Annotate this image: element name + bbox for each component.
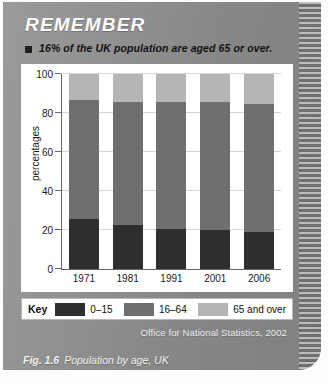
- x-axis-tick-label: 1971: [73, 273, 95, 284]
- bar-column: 1971: [69, 74, 99, 269]
- square-bullet-icon: [25, 46, 32, 53]
- x-axis-tick-label: 2006: [248, 273, 270, 284]
- bar-segment: [156, 74, 186, 102]
- legend-swatch: [198, 303, 228, 316]
- remember-panel: REMEMBER 16% of the UK population are ag…: [3, 2, 321, 370]
- chart-container: percentages 020406080100 197119811991200…: [21, 64, 293, 292]
- y-axis-tick: [55, 112, 61, 113]
- legend-label: 0–15: [90, 304, 112, 315]
- bar-segment: [156, 229, 186, 269]
- legend-key-label: Key: [28, 303, 47, 315]
- bar-segment: [69, 100, 99, 219]
- bullet-row: 16% of the UK population are aged 65 or …: [25, 42, 291, 55]
- legend-item: 16–64: [124, 303, 187, 316]
- y-axis-tick: [55, 229, 61, 230]
- y-axis-tick: [55, 73, 61, 74]
- y-axis-tick-label: 0: [47, 264, 53, 275]
- y-axis-tick: [55, 151, 61, 152]
- bar-segment: [200, 74, 230, 102]
- bar-segment: [113, 225, 143, 269]
- legend-label: 16–64: [159, 304, 187, 315]
- chart-legend: Key 0–1516–6465 and over: [21, 298, 293, 320]
- figure-caption-text: Population by age, UK: [64, 354, 169, 366]
- legend-swatch: [55, 303, 85, 316]
- bar-segment: [244, 104, 274, 232]
- y-axis-tick: [55, 268, 61, 269]
- bar-segment: [69, 74, 99, 100]
- bar-segment: [156, 102, 186, 229]
- page-root: REMEMBER 16% of the UK population are ag…: [0, 0, 328, 384]
- figure-caption: Fig. 1.6Population by age, UK: [23, 354, 291, 366]
- page-edge-artifact: [299, 2, 321, 370]
- x-axis-tick-label: 1981: [117, 273, 139, 284]
- bullet-text: 16% of the UK population are aged 65 or …: [39, 42, 272, 55]
- bars-layer: 19711981199120012006: [62, 74, 281, 269]
- bar-segment: [113, 74, 143, 102]
- bar-column: 1991: [156, 74, 186, 269]
- page-title: REMEMBER: [25, 14, 145, 36]
- bar-column: 2001: [200, 74, 230, 269]
- x-axis-tick-label: 1991: [160, 273, 182, 284]
- figure-number: Fig. 1.6: [23, 354, 59, 366]
- x-axis-tick-label: 2001: [204, 273, 226, 284]
- legend-item: 0–15: [55, 303, 112, 316]
- y-axis-label: percentages: [30, 94, 41, 214]
- legend-label: 65 and over: [233, 304, 286, 315]
- y-axis-tick: [55, 190, 61, 191]
- bar-column: 2006: [244, 74, 274, 269]
- bar-segment: [113, 102, 143, 225]
- y-axis-tick-label: 80: [42, 108, 53, 119]
- legend-items: 0–1516–6465 and over: [55, 303, 286, 316]
- bar-column: 1981: [113, 74, 143, 269]
- legend-swatch: [124, 303, 154, 316]
- legend-item: 65 and over: [198, 303, 286, 316]
- bar-segment: [244, 74, 274, 104]
- y-axis-tick-label: 40: [42, 186, 53, 197]
- bar-segment: [200, 102, 230, 230]
- bar-segment: [69, 219, 99, 269]
- plot-area: 020406080100 19711981199120012006: [61, 74, 281, 270]
- bar-segment: [244, 232, 274, 269]
- source-text: Office for National Statistics, 2002: [140, 327, 287, 338]
- y-axis-tick-label: 20: [42, 225, 53, 236]
- y-axis-tick-label: 60: [42, 147, 53, 158]
- y-axis-tick-label: 100: [36, 69, 53, 80]
- bar-segment: [200, 230, 230, 269]
